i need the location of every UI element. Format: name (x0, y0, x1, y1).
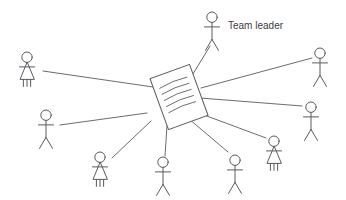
figure-leg (163, 184, 170, 195)
document-page[interactable] (150, 64, 208, 129)
figure-leg (311, 129, 318, 140)
connector-line (200, 98, 302, 106)
team-leader-label: Team leader (228, 20, 284, 31)
member-figure-bottom-center (156, 157, 171, 195)
figure-head (41, 110, 51, 120)
connector-line (112, 121, 151, 158)
member-figure-right-mid (304, 102, 319, 140)
figure-leg (212, 39, 219, 50)
figure-leg (46, 137, 53, 148)
connector-line (60, 113, 147, 125)
figure-head (315, 48, 325, 58)
document-shape[interactable] (150, 64, 208, 129)
figure-head (158, 157, 168, 167)
member-figure-bottom-right (228, 155, 243, 193)
figure-head (230, 155, 240, 165)
member-figure-left-top (20, 52, 35, 86)
figure-head (269, 136, 279, 146)
team-leader-figure (205, 12, 220, 50)
member-figure-right-low (267, 136, 282, 170)
figure-skirt (93, 162, 107, 179)
figure-head (95, 152, 105, 162)
figure-leg (229, 182, 236, 193)
figure-leg (314, 75, 321, 86)
connector-line (43, 71, 153, 87)
member-figure-right-top (313, 48, 328, 86)
figure-leg (305, 129, 312, 140)
figure-head (22, 52, 32, 62)
labels-group: Team leader (228, 20, 284, 31)
figure-head (207, 12, 217, 22)
central-document[interactable] (150, 64, 208, 129)
figure-skirt (267, 146, 281, 163)
member-figure-left-mid (39, 110, 54, 148)
figure-leg (320, 75, 327, 86)
figure-head (306, 102, 316, 112)
member-figure-bottom-left (93, 152, 108, 186)
connector-line (201, 58, 312, 88)
star-communication-diagram: Team leader (0, 0, 346, 200)
connector-line (193, 46, 210, 74)
connector-line (189, 119, 228, 152)
figure-leg (40, 137, 47, 148)
diagram-canvas: Team leader (0, 0, 346, 200)
figure-leg (235, 182, 242, 193)
figure-skirt (20, 62, 34, 79)
connector-line (165, 126, 167, 156)
figure-leg (157, 184, 164, 195)
